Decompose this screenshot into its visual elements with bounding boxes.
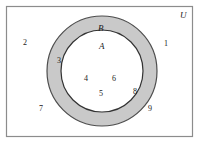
element-label-3: 3 [57, 57, 61, 65]
element-label-9: 9 [148, 105, 152, 113]
venn-diagram-svg [0, 0, 201, 144]
element-label-8: 8 [133, 88, 137, 96]
set-label-b: B [98, 24, 104, 33]
universe-label-u: U [180, 11, 187, 20]
venn-diagram-canvas: U B A 1 2 3 4 5 6 7 8 9 [0, 0, 201, 144]
element-label-7: 7 [39, 105, 43, 113]
set-label-a: A [99, 42, 105, 51]
element-label-5: 5 [99, 90, 103, 98]
element-label-1: 1 [164, 40, 168, 48]
element-label-2: 2 [23, 39, 27, 47]
element-label-4: 4 [84, 75, 88, 83]
element-label-6: 6 [112, 75, 116, 83]
